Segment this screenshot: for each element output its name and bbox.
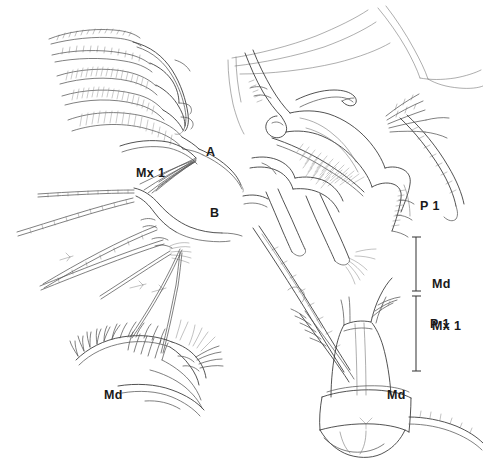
specimen-mx1-panel-b xyxy=(17,188,242,353)
scale-bar-label-line-md: Md xyxy=(432,277,461,291)
panel-label-b: B xyxy=(210,207,219,221)
line-drawing-canvas: .s{fill:none;stroke:#555;stroke-width:.7… xyxy=(0,0,483,469)
label-md-bottom-left: Md xyxy=(104,389,123,403)
label-md-bottom-right: Md xyxy=(387,389,406,403)
scale-bars-group xyxy=(412,237,421,371)
illustration-plate: .s{fill:none;stroke:#555;stroke-width:.7… xyxy=(0,0,483,469)
scale-bar-p1 xyxy=(412,296,421,371)
label-p1-upper-right: P 1 xyxy=(420,200,440,214)
specimen-md-bottom-left xyxy=(70,320,223,416)
scale-bar-md-mx1 xyxy=(412,237,421,291)
scale-bar-label-md-mx1: Md Mx 1 xyxy=(432,249,461,361)
scale-bar-label-p1: P 1 xyxy=(430,318,450,332)
panel-label-a: A xyxy=(206,146,215,160)
label-mx1-top-left: Mx 1 xyxy=(136,167,165,181)
specimen-p1 xyxy=(228,6,483,284)
